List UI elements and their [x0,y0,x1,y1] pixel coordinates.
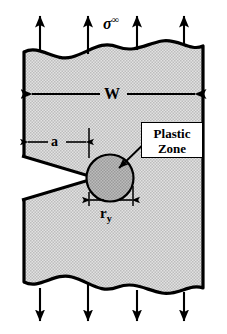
diagram-canvas [0,0,227,334]
crack-length-label: a [51,135,58,149]
sigma-glyph: σ [103,15,112,32]
plastic-zone-callout-line-1: Plastic [142,127,202,140]
plastic-zone-callout-box: Plastic Zone [141,122,203,158]
plastic-zone-radius-label: ry [100,206,112,224]
infinity-glyph: ∞ [112,14,119,25]
plastic-zone-callout-line-2: Zone [142,142,202,155]
y-subscript-glyph: y [107,213,112,224]
fracture-mechanics-diagram: σ∞ W a ry Plastic Zone [0,0,227,334]
remote-stress-label: σ∞ [103,15,118,32]
width-label: W [104,86,120,102]
r-glyph: r [100,205,107,221]
